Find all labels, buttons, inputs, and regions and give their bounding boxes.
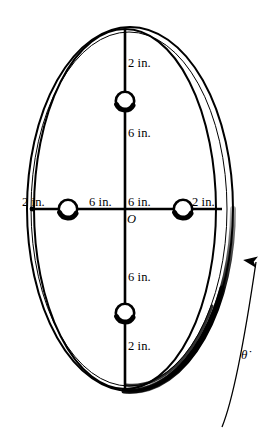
dimension-label-top-inner: 6 in. (128, 127, 151, 140)
bead-right (174, 200, 192, 218)
dimension-label-right-inner: 6 in. (128, 196, 151, 209)
rotation-arrow-curve (222, 262, 256, 427)
dimension-label-top-outer: 2 in. (128, 57, 151, 70)
dimension-label-bottom-inner: 6 in. (128, 271, 151, 284)
bead-top (116, 92, 134, 110)
bead-left (59, 200, 77, 218)
dimension-label-bottom-outer: 2 in. (128, 340, 151, 353)
rotation-arrow (222, 262, 256, 427)
dimension-label-left-inner: 6 in. (89, 196, 112, 209)
angular-rate-label: θ̇ (241, 348, 247, 361)
bead-bottom (116, 304, 134, 322)
dimension-label-left-outer: 2 in. (22, 196, 45, 209)
rotating-hoop-figure: 2 in. 6 in. 2 in. 6 in. 6 in. 2 in. 6 in… (0, 0, 277, 448)
origin-label: O (127, 213, 136, 226)
dimension-label-right-outer: 2 in. (192, 196, 215, 209)
